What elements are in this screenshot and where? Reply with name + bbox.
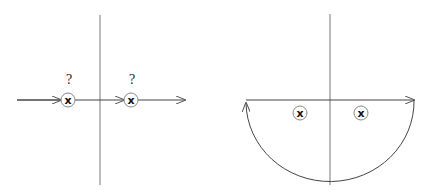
question-mark-label: ? xyxy=(66,72,72,87)
pole-x-icon: x xyxy=(64,94,71,107)
contour-diagram: x ? x ? x x xyxy=(0,0,428,193)
pole-x-icon: x xyxy=(127,94,134,107)
pole-right-1: x xyxy=(293,106,307,120)
pole-left-1: x ? xyxy=(61,72,75,107)
pole-right-2: x xyxy=(354,106,368,120)
question-mark-label: ? xyxy=(129,72,135,87)
pole-x-icon: x xyxy=(357,107,364,120)
pole-x-icon: x xyxy=(296,107,303,120)
left-panel: x ? x ? xyxy=(17,15,185,185)
pole-left-2: x ? xyxy=(124,72,138,107)
right-panel: x x xyxy=(246,14,414,185)
